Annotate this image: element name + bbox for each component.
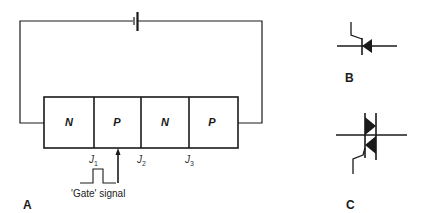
region-label-4: P	[208, 116, 216, 128]
triac-symbol-icon	[336, 113, 407, 174]
diagram-canvas: N P N P J1 J2 J3 'Gate' signal A B C	[0, 0, 427, 213]
region-label-1: N	[65, 116, 74, 128]
panel-label-c: C	[346, 198, 355, 212]
circuit-wire-left	[20, 21, 133, 123]
gate-signal-caption: 'Gate' signal	[71, 188, 125, 199]
panel-label-a: A	[23, 198, 32, 212]
scr-symbol-icon	[337, 22, 397, 55]
panel-label-b: B	[345, 71, 354, 85]
region-label-2: P	[113, 116, 121, 128]
junction-label-3: J3	[184, 154, 194, 167]
junction-label-1: J1	[88, 154, 98, 167]
circuit-wire-right	[138, 21, 262, 123]
region-label-3: N	[161, 116, 170, 128]
gate-pulse-icon	[80, 169, 116, 183]
junction-label-2: J2	[136, 154, 146, 167]
gate-arrow-icon	[116, 148, 121, 183]
battery-icon	[134, 12, 138, 31]
